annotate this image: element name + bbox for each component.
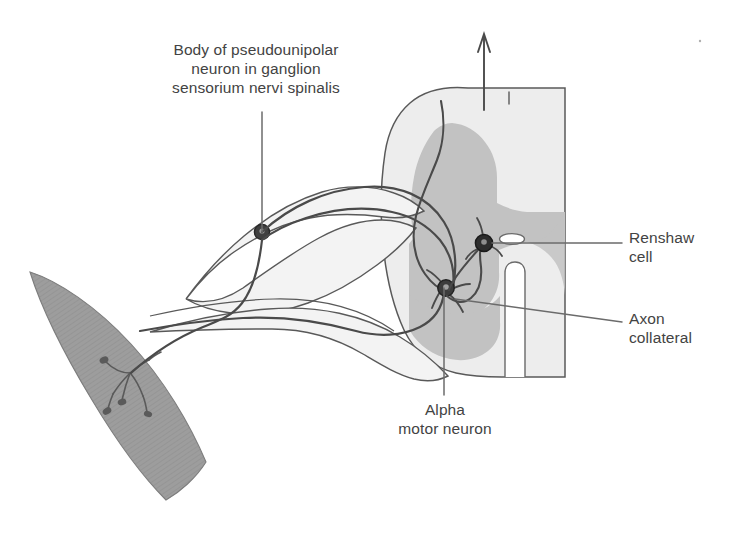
dorsal-root-ganglion [186, 187, 424, 314]
ventral-median-fissure [505, 262, 525, 377]
label-pseudounipolar-neuron: Body of pseudounipolar neuron in ganglio… [130, 40, 382, 97]
label-axon-collateral: Axon collateral [629, 309, 737, 347]
speck [699, 40, 701, 42]
label-alpha-motor-neuron: Alpha motor neuron [366, 400, 524, 438]
label-renshaw-cell: Renshaw cell [629, 228, 737, 266]
